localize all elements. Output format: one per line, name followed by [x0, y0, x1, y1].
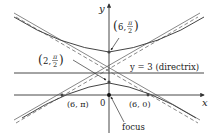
svg-text:2,: 2,	[43, 56, 51, 66]
focus-label: focus	[122, 122, 145, 132]
focus-pointer	[111, 97, 124, 122]
right-x-intercept-point	[147, 94, 150, 97]
left-x-intercept-point	[61, 94, 64, 97]
x-axis-label: x	[202, 97, 208, 108]
y-axis-label: y	[98, 3, 105, 14]
svg-text:(: (	[113, 19, 118, 33]
svg-text:2: 2	[128, 27, 132, 35]
svg-text:π: π	[127, 19, 133, 27]
focus-point	[107, 93, 111, 97]
hyperbola-diagram: y x 0 ( 6, π 2 ) ( 2, π 2 ) y = 3 (direc…	[0, 0, 216, 138]
svg-text:6,: 6,	[118, 22, 126, 32]
origin-label: 0	[100, 98, 105, 108]
right-x-intercept-label: (6, 0)	[129, 100, 151, 109]
upper-vertex-label: ( 6, π 2 )	[113, 19, 139, 35]
lower-vertex-label: ( 2, π 2 )	[38, 53, 64, 69]
svg-text:π: π	[52, 53, 58, 61]
left-x-intercept-label: (6, π)	[67, 100, 89, 109]
upper-vertex-point	[107, 50, 110, 53]
lower-vertex-point	[107, 80, 110, 83]
svg-text:2: 2	[53, 61, 57, 69]
svg-text:): )	[134, 19, 139, 33]
svg-text:): )	[59, 53, 64, 67]
directrix-label: y = 3 (directrix)	[129, 62, 199, 72]
svg-text:(: (	[38, 53, 43, 67]
upper-vertex-pointer	[111, 38, 119, 50]
